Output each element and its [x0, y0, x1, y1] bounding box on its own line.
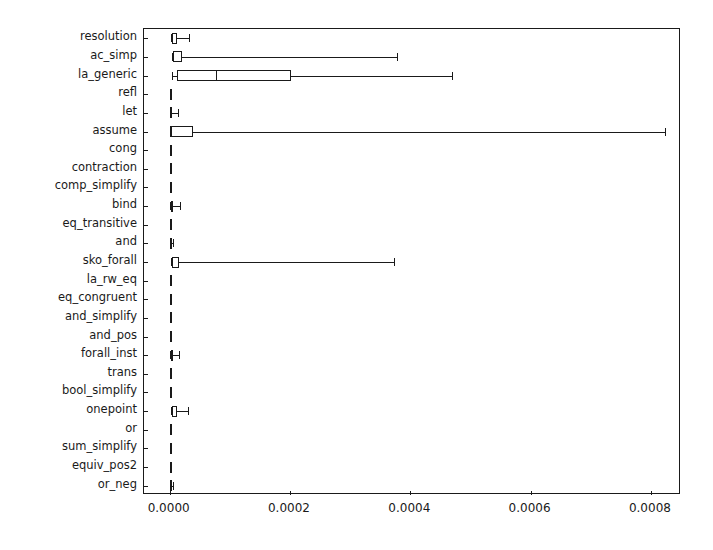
- median-or: [170, 424, 171, 435]
- cap-high: [188, 407, 189, 415]
- median-assume: [171, 126, 172, 137]
- y-tick-label-comp_simplify: comp_simplify: [55, 181, 137, 193]
- median-cong: [170, 145, 171, 156]
- x-tick-mark: [290, 491, 291, 495]
- y-tick-mark: [144, 337, 148, 338]
- x-tick-label: 0.0008: [629, 501, 671, 515]
- y-tick-mark: [144, 430, 148, 431]
- median-contraction: [170, 163, 171, 174]
- cap-high: [189, 34, 190, 42]
- median-la_rw_eq: [170, 275, 171, 286]
- median-or_neg: [171, 480, 172, 491]
- y-tick-label-refl: refl: [118, 87, 137, 99]
- y-tick-label-ac_simp: ac_simp: [90, 50, 137, 62]
- cap-high: [180, 202, 181, 210]
- y-tick-mark: [144, 206, 148, 207]
- x-tick-label: 0.0004: [388, 501, 430, 515]
- y-tick-label-bool_simplify: bool_simplify: [62, 386, 137, 398]
- whisker-high: [173, 355, 179, 356]
- y-tick-label-eq_congruent: eq_congruent: [58, 293, 137, 305]
- x-tick-label: 0.0002: [268, 501, 310, 515]
- y-tick-label-and_pos: and_pos: [89, 330, 137, 342]
- whisker-high: [291, 76, 452, 77]
- median-eq_congruent: [170, 294, 171, 305]
- median-refl: [170, 89, 171, 100]
- box-assume: [170, 126, 193, 137]
- x-tick-mark: [651, 491, 652, 495]
- median-trans: [170, 368, 171, 379]
- y-tick-mark: [144, 262, 148, 263]
- y-tick-mark: [144, 467, 148, 468]
- median-eq_transitive: [170, 219, 171, 230]
- y-tick-mark: [144, 150, 148, 151]
- y-tick-mark: [144, 132, 148, 133]
- cap-high: [179, 351, 180, 359]
- y-tick-label-or_neg: or_neg: [98, 479, 137, 491]
- y-tick-mark: [144, 243, 148, 244]
- median-la_generic: [216, 70, 217, 81]
- box-la_generic: [177, 70, 291, 81]
- cap-high: [665, 128, 666, 136]
- median-onepoint: [172, 406, 173, 417]
- cap-low: [172, 72, 173, 80]
- boxplot-figure: resolutionac_simpla_genericreflletassume…: [0, 0, 713, 550]
- median-let: [171, 107, 172, 118]
- median-sum_simplify: [171, 443, 172, 454]
- y-tick-label-and: and: [115, 237, 137, 249]
- median-resolution: [172, 33, 173, 44]
- x-tick-mark: [410, 491, 411, 495]
- x-tick-label: 0.0006: [509, 501, 551, 515]
- x-tick-label: 0.0000: [148, 501, 190, 515]
- cap-high: [452, 72, 453, 80]
- y-tick-label-sko_forall: sko_forall: [83, 255, 137, 267]
- y-tick-mark: [144, 318, 148, 319]
- y-tick-mark: [144, 299, 148, 300]
- y-tick-mark: [144, 411, 148, 412]
- plot-area: [144, 29, 679, 493]
- cap-high: [178, 109, 179, 117]
- x-tick-mark: [531, 491, 532, 495]
- median-and: [171, 238, 172, 249]
- whisker-high: [177, 38, 189, 39]
- y-tick-label-resolution: resolution: [80, 32, 137, 44]
- y-tick-mark: [144, 374, 148, 375]
- y-tick-mark: [144, 113, 148, 114]
- cap-high: [173, 239, 174, 247]
- x-tick-mark: [170, 491, 171, 495]
- y-tick-label-equiv_pos2: equiv_pos2: [72, 460, 137, 472]
- y-tick-label-assume: assume: [92, 125, 137, 137]
- median-comp_simplify: [170, 182, 171, 193]
- y-tick-label-let: let: [122, 106, 137, 118]
- y-tick-mark: [144, 225, 148, 226]
- y-tick-mark: [144, 57, 148, 58]
- whisker-high: [193, 132, 665, 133]
- y-tick-label-and_simplify: and_simplify: [65, 311, 137, 323]
- whisker-high: [179, 262, 394, 263]
- y-tick-mark: [144, 94, 148, 95]
- y-tick-label-forall_inst: forall_inst: [81, 348, 137, 360]
- y-tick-mark: [144, 355, 148, 356]
- median-and_pos: [170, 331, 171, 342]
- plot-axes: [143, 28, 680, 494]
- y-tick-mark: [144, 169, 148, 170]
- cap-high: [173, 482, 174, 490]
- median-bind: [171, 201, 172, 212]
- median-sko_forall: [172, 257, 173, 268]
- whisker-high: [182, 57, 398, 58]
- median-bool_simplify: [170, 387, 171, 398]
- y-tick-label-onepoint: onepoint: [86, 404, 137, 416]
- y-tick-label-trans: trans: [107, 367, 137, 379]
- cap-high: [394, 258, 395, 266]
- median-ac_simp: [173, 51, 174, 62]
- y-tick-mark: [144, 392, 148, 393]
- y-tick-mark: [144, 281, 148, 282]
- y-tick-mark: [144, 38, 148, 39]
- whisker-high: [172, 206, 180, 207]
- y-tick-label-cong: cong: [109, 143, 137, 155]
- cap-high: [397, 53, 398, 61]
- y-tick-mark: [144, 486, 148, 487]
- y-tick-label-la_rw_eq: la_rw_eq: [87, 274, 137, 286]
- median-and_simplify: [170, 312, 171, 323]
- y-tick-label-eq_transitive: eq_transitive: [63, 218, 137, 230]
- y-tick-label-bind: bind: [112, 199, 137, 211]
